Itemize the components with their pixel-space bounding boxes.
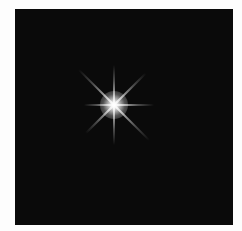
star-ray (114, 104, 154, 106)
star-ray (113, 72, 146, 105)
star-ray (113, 65, 115, 105)
star-ray (78, 69, 115, 106)
star-ray (113, 105, 115, 145)
black-square-canvas (15, 9, 233, 225)
star-ray (84, 104, 114, 106)
star-ray (113, 104, 150, 141)
